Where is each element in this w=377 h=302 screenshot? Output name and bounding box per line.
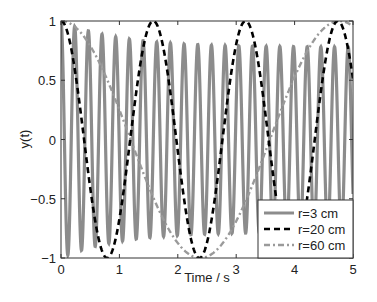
legend-label: r=20 cm: [298, 222, 345, 237]
y-tick-label: 0: [49, 133, 56, 148]
y-axis-label: y(t): [17, 130, 32, 149]
x-tick-label: 2: [174, 262, 181, 277]
legend-label: r=3 cm: [298, 206, 338, 221]
y-tick-label: 1: [49, 14, 56, 29]
line-chart: 012345−1−0.500.51 Time / s y(t) r=3 cm r…: [0, 0, 377, 302]
y-tick-label: −1: [41, 251, 56, 266]
x-tick-label: 1: [116, 262, 123, 277]
x-tick-label: 5: [349, 262, 356, 277]
legend: r=3 cm r=20 cm r=60 cm: [258, 200, 353, 258]
x-tick-label: 3: [233, 262, 240, 277]
x-tick-label: 4: [291, 262, 298, 277]
x-axis-label: Time / s: [184, 270, 230, 285]
y-tick-label: 0.5: [38, 73, 56, 88]
x-tick-label: 0: [57, 262, 64, 277]
y-tick-label: −0.5: [30, 192, 56, 207]
legend-label: r=60 cm: [298, 238, 345, 253]
